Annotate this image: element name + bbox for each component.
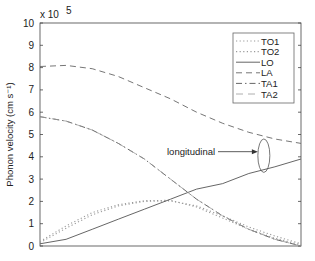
legend-label-ta2: TA2 <box>261 89 278 100</box>
y-tick-label: 10 <box>23 18 35 29</box>
annotation-arrowhead <box>252 149 258 154</box>
y-tick-label: 2 <box>28 196 34 207</box>
legend-label-la: LA <box>261 67 273 78</box>
chart: 012345678910x 105Phonon velocity (cm s⁻¹… <box>0 0 315 261</box>
y-tick-label: 7 <box>28 84 34 95</box>
y-tick-label: 5 <box>28 129 34 140</box>
y-tick-label: 0 <box>28 241 34 252</box>
legend: TO1TO2LOLATA1TA2 <box>233 33 294 103</box>
y-tick-label: 6 <box>28 107 34 118</box>
y-tick-label: 1 <box>28 218 34 229</box>
y-multiplier-label: x 10 <box>40 9 59 20</box>
y-tick-label: 9 <box>28 40 34 51</box>
y-axis-label: Phonon velocity (cm s⁻¹) <box>4 82 15 186</box>
legend-label-to2: TO2 <box>261 46 279 57</box>
annotations: longitudinal <box>167 139 270 172</box>
y-tick-label: 4 <box>28 151 34 162</box>
legend-label-lo: LO <box>261 57 274 68</box>
y-tick-label: 3 <box>28 174 34 185</box>
series-line-to1 <box>40 200 301 245</box>
legend-label-to1: TO1 <box>261 36 279 47</box>
annotation-ellipse <box>258 139 270 172</box>
legend-label-ta1: TA1 <box>261 78 278 89</box>
y-multiplier-exponent: 5 <box>66 5 72 16</box>
annotation-label: longitudinal <box>167 146 215 157</box>
y-tick-label: 8 <box>28 62 34 73</box>
series-line-to2 <box>40 201 301 244</box>
